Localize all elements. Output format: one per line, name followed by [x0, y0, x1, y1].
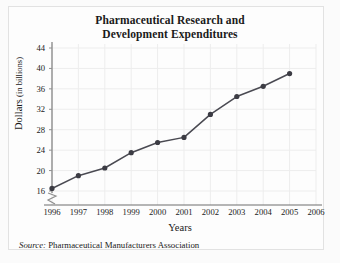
- source-note: Source: Pharmaceutical Manufacturers Ass…: [19, 240, 199, 250]
- y-tick-label: 20: [36, 166, 45, 176]
- data-point-marker: [287, 71, 292, 76]
- data-point-marker: [129, 150, 134, 155]
- data-point-marker: [76, 173, 81, 178]
- data-point-marker: [261, 84, 266, 89]
- x-tick-label: 2005: [281, 207, 298, 217]
- data-point-marker: [181, 135, 186, 140]
- data-point-marker: [234, 94, 239, 99]
- data-line-series: [52, 74, 290, 189]
- x-tick-label: 2004: [255, 207, 273, 217]
- y-tick-labels: 1620242832364044: [36, 43, 45, 196]
- y-tick-label: 28: [36, 125, 45, 135]
- y-tick-label: 32: [36, 104, 45, 114]
- x-tick-label: 2003: [228, 207, 245, 217]
- y-tick-label: 44: [36, 43, 45, 53]
- series-polyline: [52, 74, 290, 189]
- x-tick-label: 1999: [123, 207, 140, 217]
- x-axis-title: Years: [40, 222, 320, 233]
- chart-figure: Pharmaceutical Research and Development …: [0, 0, 340, 263]
- x-tick-label: 2006: [307, 207, 325, 217]
- data-point-marker: [155, 140, 160, 145]
- y-tick-label: 36: [36, 84, 45, 94]
- gridlines: [52, 44, 316, 205]
- x-tick-label: 1997: [70, 207, 88, 217]
- axis-lines: [44, 42, 322, 205]
- source-label: Source:: [19, 240, 46, 250]
- y-tick-label: 24: [36, 145, 45, 155]
- x-tick-label: 1996: [43, 207, 61, 217]
- source-text: Pharmaceutical Manufacturers Association: [46, 240, 199, 250]
- x-tick-label: 2001: [175, 207, 192, 217]
- data-point-marker: [102, 165, 107, 170]
- x-tick-label: 1998: [96, 207, 113, 217]
- data-point-marker: [208, 112, 213, 117]
- x-tick-label: 2000: [149, 207, 166, 217]
- x-tick-label: 2002: [202, 207, 219, 217]
- y-tick-label: 16: [36, 186, 45, 196]
- y-tick-label: 40: [36, 63, 45, 73]
- data-point-marker: [49, 186, 54, 191]
- axis-break-zigzag: [48, 193, 56, 204]
- y-axis-break-icon: [48, 193, 56, 204]
- x-tick-labels: 1996199719981999200020012002200320042005…: [43, 207, 325, 217]
